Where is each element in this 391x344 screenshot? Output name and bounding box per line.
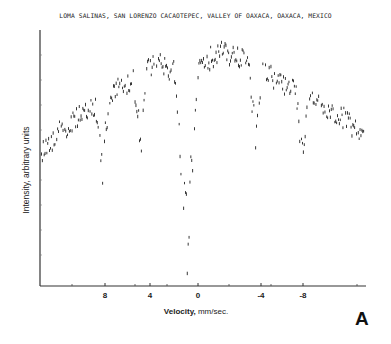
data-point (95, 98, 96, 101)
data-point (80, 119, 81, 122)
data-point (76, 107, 77, 110)
data-point (210, 46, 211, 49)
data-point (74, 115, 75, 118)
data-point (248, 63, 249, 66)
data-point (168, 74, 169, 78)
data-point (201, 59, 202, 62)
data-point (273, 87, 274, 90)
data-point (294, 85, 295, 88)
data-point (218, 50, 219, 53)
data-point (271, 75, 272, 78)
data-point (268, 79, 269, 82)
data-point (208, 61, 209, 64)
data-point (356, 132, 357, 135)
data-point (233, 46, 234, 49)
data-point (285, 77, 286, 80)
data-point (82, 107, 83, 110)
data-point (123, 90, 124, 93)
data-point (78, 119, 79, 122)
data-point (333, 107, 334, 110)
data-point (283, 75, 284, 78)
data-point (304, 143, 305, 146)
data-point (303, 150, 304, 154)
data-point (226, 44, 227, 48)
data-point (241, 64, 242, 66)
data-point (148, 58, 149, 61)
data-point (354, 126, 355, 129)
data-point (212, 59, 213, 62)
data-point (131, 82, 132, 85)
data-point (117, 93, 118, 96)
data-point (53, 131, 54, 134)
data-point (113, 84, 114, 87)
data-point (162, 66, 163, 68)
x-tick-label: -4 (257, 291, 265, 300)
data-point (180, 155, 181, 158)
data-point (111, 97, 112, 100)
data-point (282, 88, 283, 91)
data-point (211, 60, 212, 63)
data-point (44, 154, 45, 157)
data-point (331, 108, 332, 111)
data-point (346, 125, 347, 128)
data-point (355, 120, 356, 123)
data-point (109, 102, 110, 104)
data-point (64, 128, 65, 131)
x-tick-label: 8 (103, 291, 108, 300)
data-point (179, 123, 180, 125)
data-point (259, 102, 260, 105)
data-point (298, 102, 299, 105)
data-point (79, 105, 80, 108)
data-point (281, 80, 282, 84)
data-point (143, 109, 144, 112)
data-point (191, 159, 192, 162)
data-point (251, 96, 252, 99)
data-point (256, 125, 257, 128)
data-point (50, 147, 51, 150)
data-point (144, 99, 145, 102)
data-point (328, 105, 329, 108)
data-point (306, 115, 307, 118)
data-point (296, 85, 297, 87)
data-point (133, 69, 134, 72)
data-point (98, 126, 99, 129)
data-point (202, 61, 203, 64)
data-point (336, 122, 337, 125)
data-point (305, 135, 306, 138)
data-point (246, 60, 247, 62)
data-point (309, 97, 310, 100)
data-point (200, 62, 201, 65)
data-point (175, 82, 176, 85)
data-point (280, 73, 281, 76)
data-point (345, 111, 346, 115)
data-point (249, 63, 250, 66)
data-point (87, 116, 88, 119)
data-point (181, 173, 182, 175)
data-point (161, 62, 162, 65)
data-point (324, 105, 325, 108)
data-point (118, 86, 119, 88)
data-point (129, 89, 130, 92)
data-point (237, 47, 238, 50)
data-point (104, 140, 105, 144)
data-point (289, 92, 290, 95)
data-point (337, 114, 338, 117)
data-point (203, 57, 204, 61)
data-point (221, 41, 222, 44)
data-point (227, 50, 228, 53)
data-point (140, 138, 141, 141)
data-point (68, 127, 69, 130)
data-point (100, 134, 101, 137)
data-point (119, 82, 120, 85)
data-point (97, 121, 98, 124)
data-point (73, 112, 74, 115)
data-point (353, 124, 354, 127)
data-point (226, 58, 227, 61)
data-point (195, 109, 196, 112)
data-point (52, 149, 53, 152)
data-point (316, 98, 317, 101)
data-point (262, 63, 263, 66)
data-point (235, 59, 236, 62)
data-point (323, 112, 324, 115)
data-point (70, 129, 71, 132)
